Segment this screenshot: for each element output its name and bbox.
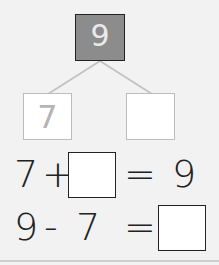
part-left-box[interactable]: 7 bbox=[23, 93, 72, 140]
eq1-answer-box[interactable] bbox=[68, 152, 116, 198]
whole-box: 9 bbox=[75, 14, 125, 61]
eq2-equals: = bbox=[124, 207, 156, 247]
eq1-addend: 7 bbox=[14, 154, 38, 194]
eq1-result: 9 bbox=[172, 154, 196, 194]
divider bbox=[0, 260, 219, 262]
eq2-subtrahend: 7 bbox=[76, 207, 100, 247]
part-right-box[interactable] bbox=[126, 93, 175, 140]
eq2-operator: - bbox=[44, 207, 58, 247]
eq1-equals: = bbox=[124, 154, 156, 194]
eq2-answer-box[interactable] bbox=[158, 205, 206, 251]
eq2-minuend: 9 bbox=[14, 207, 38, 247]
